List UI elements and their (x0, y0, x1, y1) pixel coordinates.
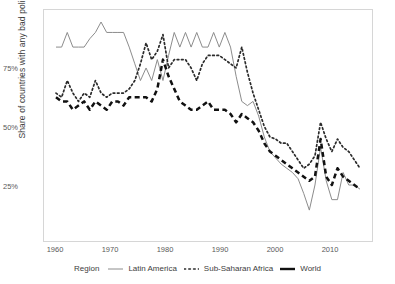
chart-legend: Region Latin America Sub-Saharan Africa … (0, 264, 395, 273)
legend-item-latin-america[interactable]: Latin America (108, 264, 176, 273)
legend-item-world[interactable]: World (280, 264, 321, 273)
y-axis-tick-50: 50% (0, 123, 18, 132)
chart-container: Share of countries with any bad policy 7… (0, 0, 395, 284)
legend-item-sub-saharan-africa[interactable]: Sub-Saharan Africa (184, 264, 273, 273)
legend-label-world: World (300, 264, 321, 273)
dashed-line-swatch (280, 265, 295, 273)
y-axis-tick-75: 75% (0, 64, 18, 73)
x-axis-tick-1960: 1960 (35, 245, 75, 254)
y-axis-tick-25: 25% (0, 182, 18, 191)
x-axis-tick-1990: 1990 (200, 245, 240, 254)
x-axis-tick-2000: 2000 (255, 245, 295, 254)
x-axis-tick-1980: 1980 (145, 245, 185, 254)
series-line-world (56, 60, 360, 190)
legend-title: Region (74, 264, 99, 273)
series-line-sub-saharan-africa (56, 35, 360, 169)
solid-line-swatch (108, 265, 123, 273)
legend-label-latin-america: Latin America (128, 264, 176, 273)
dotted-line-swatch (184, 265, 199, 273)
x-axis-tick-2010: 2010 (310, 245, 350, 254)
y-axis-label: Share of countries with any bad policy (17, 0, 27, 165)
series-lines (44, 10, 372, 241)
series-line-latin-america (56, 22, 360, 210)
plot-area (43, 9, 373, 242)
legend-label-sub-saharan-africa: Sub-Saharan Africa (204, 264, 273, 273)
x-axis-tick-1970: 1970 (90, 245, 130, 254)
